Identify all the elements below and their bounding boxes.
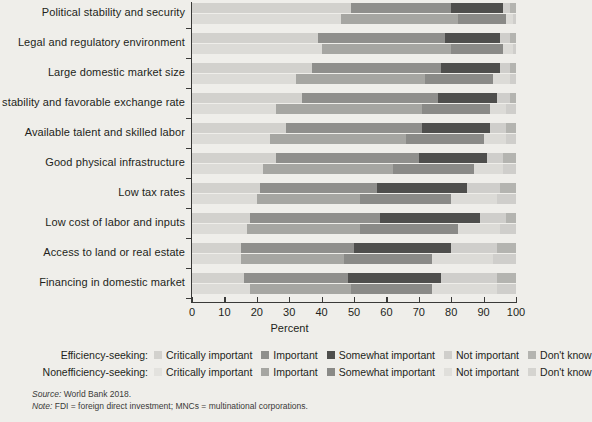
bar-group-nonefficiency-seeking: [192, 194, 516, 204]
y-axis-label: Large domestic market size: [48, 66, 185, 78]
legend-item[interactable]: Critically important: [154, 366, 252, 378]
bar-segment: [445, 33, 500, 43]
legend-swatch-icon: [444, 368, 452, 376]
bar-segment: [484, 134, 507, 144]
bar-segment: [432, 254, 494, 264]
bar-segment: [192, 164, 263, 174]
legend-item[interactable]: Somewhat important: [327, 349, 435, 361]
legend-item-label: Important: [273, 349, 317, 361]
figure-notes: Source: World Bank 2018. Note: FDI = for…: [32, 388, 308, 412]
bar-group-nonefficiency-seeking: [192, 284, 516, 294]
x-axis-tick: [451, 297, 452, 303]
bar-segment: [497, 273, 516, 283]
bar-segment: [500, 33, 510, 43]
bar-segment: [506, 134, 516, 144]
legend-group-title: Efficiency-seeking:: [0, 349, 154, 361]
bar-segment: [500, 183, 516, 193]
y-axis-label: Low tax rates: [118, 186, 185, 198]
x-axis-tick-label: 40: [307, 306, 337, 318]
bar-segment: [192, 224, 247, 234]
bar-segment: [393, 164, 474, 174]
bar-segment: [406, 134, 484, 144]
legend-item[interactable]: Critically important: [154, 349, 252, 361]
bar-segment: [510, 93, 516, 103]
source-line: Source: World Bank 2018.: [32, 388, 308, 400]
bar-segment: [192, 63, 312, 73]
legend-item-label: Not important: [456, 366, 519, 378]
y-axis-label: Legal and regulatory environment: [18, 36, 185, 48]
bar-group-nonefficiency-seeking: [192, 14, 516, 24]
bar-segment: [192, 93, 302, 103]
bar-segment: [377, 183, 468, 193]
bar-segment: [503, 164, 516, 174]
legend-item-label: Somewhat important: [339, 349, 435, 361]
bar-segment: [192, 33, 318, 43]
legend-item[interactable]: Somewhat important: [327, 366, 435, 378]
bar-segment: [247, 224, 360, 234]
chart-legend: Efficiency-seeking:Critically importantI…: [0, 346, 539, 380]
legend-swatch-icon: [261, 351, 269, 359]
bar-segment: [192, 153, 276, 163]
bar-segment: [458, 14, 507, 24]
bar-segment: [451, 44, 503, 54]
x-axis-title-text: Percent: [271, 322, 309, 334]
bar-segment: [425, 74, 493, 84]
x-axis-tick: [257, 297, 258, 303]
bar-segment: [490, 123, 506, 133]
bar-segment: [360, 194, 451, 204]
bar-segment: [192, 44, 322, 54]
bar-segment: [192, 284, 250, 294]
bar-segment: [506, 213, 516, 223]
bar-segment: [192, 3, 351, 13]
bar-group-efficiency-seeking: [192, 33, 516, 43]
source-label: Source:: [32, 389, 61, 399]
legend-swatch-icon: [528, 368, 536, 376]
bar-segment: [296, 74, 426, 84]
bar-segment: [192, 104, 276, 114]
x-axis-tick: [289, 297, 290, 303]
legend-item[interactable]: Important: [261, 349, 317, 361]
bar-segment: [506, 104, 516, 114]
bar-group-efficiency-seeking: [192, 93, 516, 103]
legend-item[interactable]: Don't know: [528, 366, 592, 378]
bar-segment: [344, 254, 431, 264]
bar-segment: [270, 134, 406, 144]
bar-group-efficiency-seeking: [192, 213, 516, 223]
bar-group-nonefficiency-seeking: [192, 134, 516, 144]
bar-segment: [422, 123, 490, 133]
bar-segment: [341, 14, 458, 24]
bar-segment: [438, 93, 496, 103]
legend-item[interactable]: Don't know: [528, 349, 592, 361]
bar-group-efficiency-seeking: [192, 123, 516, 133]
bar-segment: [192, 183, 260, 193]
plot-area: [192, 2, 516, 302]
bar-segment: [493, 254, 516, 264]
legend-item-label: Don't know: [540, 366, 592, 378]
y-axis-label: Political stability and security: [42, 6, 185, 18]
bar-segment: [500, 224, 516, 234]
bar-group-efficiency-seeking: [192, 273, 516, 283]
bar-segment: [467, 183, 499, 193]
bar-segment: [250, 284, 350, 294]
bar-segment: [503, 3, 509, 13]
bar-segment: [192, 123, 286, 133]
legend-item[interactable]: Not important: [444, 366, 519, 378]
legend-swatch-icon: [327, 351, 335, 359]
bar-segment: [422, 104, 490, 114]
bar-segment: [286, 123, 422, 133]
legend-item-label: Not important: [456, 349, 519, 361]
bar-segment: [441, 63, 499, 73]
bar-segment: [192, 14, 341, 24]
bar-segment: [322, 44, 452, 54]
legend-item[interactable]: Not important: [444, 349, 519, 361]
x-axis-tick-label: 100: [501, 306, 531, 318]
bar-segment: [419, 153, 487, 163]
legend-item[interactable]: Important: [261, 366, 317, 378]
bar-segment: [192, 74, 296, 84]
legend-swatch-icon: [444, 351, 452, 359]
bar-group-efficiency-seeking: [192, 153, 516, 163]
x-axis-tick-label: 60: [371, 306, 401, 318]
x-axis-tick: [484, 297, 485, 303]
bar-segment: [250, 213, 380, 223]
